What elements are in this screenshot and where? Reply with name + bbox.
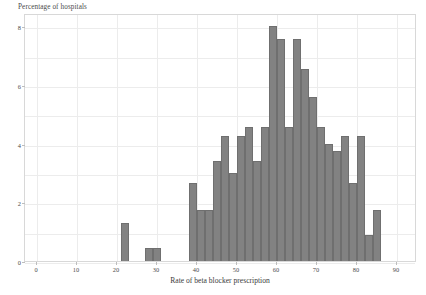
- x-tick-label: 30: [153, 266, 159, 273]
- histogram-bar: [325, 144, 333, 261]
- histogram-bar: [221, 136, 229, 261]
- bars-container: [25, 15, 415, 261]
- y-tick-label: 2: [3, 200, 21, 207]
- y-tick-label: 8: [3, 24, 21, 31]
- y-tick-label: 0: [3, 259, 21, 266]
- histogram-bar: [213, 161, 221, 261]
- x-axis-title: Rate of beta blocker prescription: [24, 276, 416, 285]
- x-tick-mark: [116, 262, 117, 265]
- x-tick-mark: [316, 262, 317, 265]
- histogram-bar: [145, 248, 153, 261]
- histogram-bar: [205, 210, 213, 261]
- histogram-bar: [349, 183, 357, 261]
- x-tick-label: 50: [233, 266, 239, 273]
- histogram-bar: [277, 39, 285, 261]
- x-tick-label: 60: [273, 266, 279, 273]
- x-tick-mark: [276, 262, 277, 265]
- y-axis-title: Percentage of hospitals: [18, 3, 87, 11]
- x-tick-label: 0: [34, 266, 37, 273]
- x-tick-mark: [396, 262, 397, 265]
- x-tick-label: 40: [193, 266, 199, 273]
- x-tick-label: 70: [313, 266, 319, 273]
- histogram-bar: [285, 127, 293, 261]
- x-tick-mark: [196, 262, 197, 265]
- histogram-bar: [245, 127, 253, 261]
- histogram-bar: [317, 127, 325, 261]
- y-tick-mark: [22, 145, 25, 146]
- histogram-bar: [293, 39, 301, 261]
- plot-area: [24, 14, 416, 262]
- histogram-bar: [189, 183, 197, 261]
- histogram-bar: [365, 235, 373, 261]
- histogram-bar: [237, 136, 245, 261]
- x-tick-mark: [236, 262, 237, 265]
- x-tick-label: 80: [353, 266, 359, 273]
- histogram-bar: [333, 151, 341, 261]
- histogram-bar: [121, 223, 129, 261]
- y-tick-mark: [22, 27, 25, 28]
- histogram-bar: [341, 136, 349, 261]
- histogram-bar: [197, 210, 205, 261]
- histogram-bar: [229, 173, 237, 261]
- histogram-bar: [269, 26, 277, 261]
- histogram-bar: [261, 127, 269, 261]
- histogram-bar: [301, 69, 309, 261]
- y-tick-label: 6: [3, 82, 21, 89]
- x-tick-mark: [156, 262, 157, 265]
- x-tick-label: 20: [113, 266, 119, 273]
- y-tick-mark: [22, 262, 25, 263]
- y-tick-mark: [22, 86, 25, 87]
- histogram-bar: [357, 136, 365, 261]
- x-tick-label: 90: [393, 266, 399, 273]
- histogram-bar: [373, 210, 381, 261]
- x-tick-mark: [356, 262, 357, 265]
- histogram-bar: [153, 248, 161, 261]
- histogram-bar: [309, 97, 317, 261]
- histogram-chart: Percentage of hospitals 02468 0102030405…: [0, 0, 426, 295]
- histogram-bar: [253, 161, 261, 261]
- y-tick-mark: [22, 203, 25, 204]
- x-tick-mark: [36, 262, 37, 265]
- x-tick-mark: [76, 262, 77, 265]
- y-tick-label: 4: [3, 141, 21, 148]
- y-axis-ticks: 02468: [0, 14, 21, 262]
- x-tick-label: 10: [73, 266, 79, 273]
